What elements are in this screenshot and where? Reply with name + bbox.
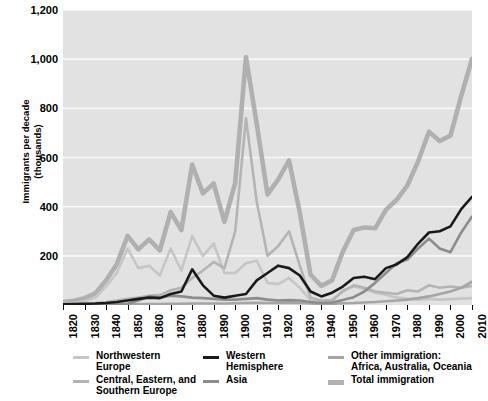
series-line xyxy=(63,57,472,302)
x-tick-label: 1880 xyxy=(196,314,208,338)
x-tick-label: 1980 xyxy=(411,314,423,338)
legend-label: Northwestern Europe xyxy=(96,351,160,372)
x-tick-label: 1840 xyxy=(110,314,122,338)
x-tick-mark xyxy=(128,305,129,310)
legend-label: Total immigration xyxy=(351,375,434,386)
x-tick-mark xyxy=(85,305,86,310)
x-tick-label: 1990 xyxy=(433,314,445,338)
legend-swatch-icon xyxy=(73,356,89,359)
legend-column: Western HemisphereAsia xyxy=(203,351,283,399)
x-tick-label: 1970 xyxy=(390,314,402,338)
legend-western-hemisphere[interactable]: Western Hemisphere xyxy=(203,351,283,371)
series-line xyxy=(63,118,472,304)
x-tick-mark xyxy=(214,305,215,310)
y-axis-tick-labels: 1,2001,000800600400200 xyxy=(10,0,58,401)
x-tick-mark xyxy=(472,305,473,310)
x-tick-label: 1850 xyxy=(132,314,144,338)
x-tick-mark xyxy=(343,305,344,310)
x-tick-label: 1890 xyxy=(218,314,230,338)
x-tick-label: 1930 xyxy=(304,314,316,338)
x-tick-mark xyxy=(171,305,172,310)
legend-swatch-icon xyxy=(328,356,344,359)
legend-other-immigration[interactable]: Other immigration: Africa, Australia, Oc… xyxy=(328,351,472,371)
x-tick-mark xyxy=(429,305,430,310)
legend-swatch-icon xyxy=(328,380,344,385)
x-tick-mark xyxy=(192,305,193,310)
x-tick-label: 1950 xyxy=(347,314,359,338)
x-tick-mark xyxy=(300,305,301,310)
x-tick-label: 1860 xyxy=(153,314,165,338)
y-tick-label: 1,000 xyxy=(12,53,58,65)
y-tick-label: 1,200 xyxy=(12,4,58,16)
x-tick-mark xyxy=(149,305,150,310)
x-tick-label: 2010 xyxy=(476,314,488,338)
x-tick-label: 1830 xyxy=(89,314,101,338)
x-tick-label: 1910 xyxy=(261,314,273,338)
y-tick-label: 400 xyxy=(12,201,58,213)
legend-swatch-icon xyxy=(203,356,219,359)
legend-column: Other immigration: Africa, Australia, Oc… xyxy=(328,351,472,399)
x-tick-label: 1940 xyxy=(325,314,337,338)
chart-legend: Northwestern EuropeCentral, Eastern, and… xyxy=(63,351,483,397)
x-tick-label: 1820 xyxy=(67,314,79,338)
chart-svg xyxy=(63,10,472,305)
x-tick-mark xyxy=(321,305,322,310)
x-tick-mark xyxy=(407,305,408,310)
legend-total-immigration[interactable]: Total immigration xyxy=(328,375,472,395)
x-tick-mark xyxy=(235,305,236,310)
legend-swatch-icon xyxy=(73,380,89,383)
x-tick-mark xyxy=(63,305,64,310)
x-axis-tick-labels: 1820183018401850186018701880189019001910… xyxy=(63,305,472,355)
x-tick-mark xyxy=(278,305,279,310)
plot-area xyxy=(63,10,472,305)
x-tick-label: 1920 xyxy=(282,314,294,338)
legend-central-eastern-southern-europe[interactable]: Central, Eastern, and Southern Europe xyxy=(73,375,196,395)
legend-swatch-icon xyxy=(203,380,219,383)
x-tick-label: 1870 xyxy=(175,314,187,338)
legend-column: Northwestern EuropeCentral, Eastern, and… xyxy=(73,351,196,399)
legend-label: Asia xyxy=(226,375,247,386)
legend-label: Other immigration: Africa, Australia, Oc… xyxy=(351,351,472,372)
x-tick-mark xyxy=(106,305,107,310)
y-tick-label: 200 xyxy=(12,250,58,262)
x-tick-label: 1900 xyxy=(239,314,251,338)
x-tick-mark xyxy=(386,305,387,310)
x-tick-mark xyxy=(450,305,451,310)
y-tick-label: 600 xyxy=(12,152,58,164)
y-tick-label: 800 xyxy=(12,102,58,114)
x-tick-label: 2000 xyxy=(454,314,466,338)
legend-label: Western Hemisphere xyxy=(226,351,283,372)
x-tick-mark xyxy=(257,305,258,310)
legend-label: Central, Eastern, and Southern Europe xyxy=(96,375,196,396)
legend-northwestern-europe[interactable]: Northwestern Europe xyxy=(73,351,196,371)
chart-page: Immigrants per decade (thousands) 1,2001… xyxy=(0,0,488,401)
legend-asia[interactable]: Asia xyxy=(203,375,283,395)
x-tick-mark xyxy=(364,305,365,310)
x-tick-label: 1960 xyxy=(368,314,380,338)
